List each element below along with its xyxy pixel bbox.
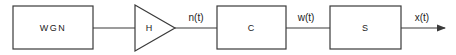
block-s-label: S — [362, 23, 368, 33]
signal-label-w: w(t) — [297, 12, 315, 23]
block-h-label: H — [146, 23, 153, 33]
block-diagram: WGN H n(t) C w(t) S x(t) — [0, 0, 456, 55]
block-h: H — [135, 5, 175, 51]
block-s: S — [330, 6, 401, 49]
block-wgn: WGN — [13, 6, 93, 49]
signal-label-x: x(t) — [415, 12, 429, 23]
signal-label-n: n(t) — [189, 12, 204, 23]
block-c-label: C — [248, 23, 255, 33]
block-c: C — [217, 6, 286, 49]
block-wgn-label: WGN — [40, 23, 67, 33]
